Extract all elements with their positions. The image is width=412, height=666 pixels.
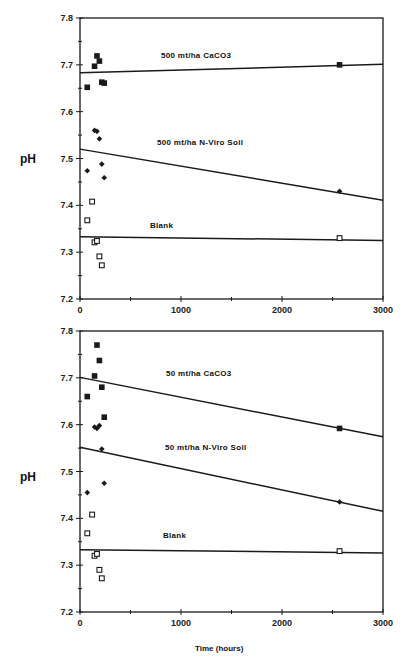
annotation-nviro: 500 mt/ha N-Viro Soil [157,138,243,147]
y-tick-label: 7.6 [60,420,73,430]
x-tick-label: 3000 [373,305,393,315]
x-tick-label: 1000 [171,305,191,315]
data-markers [84,53,342,268]
annotation-blank: Blank [150,221,174,230]
data-point-filled-square [101,80,107,86]
y-tick-label: 7.4 [60,200,73,210]
y-tick-label: 7.7 [60,60,73,70]
x-tick-label: 1000 [171,618,191,628]
data-point-filled-square [92,63,98,69]
y-tick-label: 7.3 [60,560,73,570]
y-axis-label: pH [20,152,36,166]
annotation-caco3: 500 mt/ha CaCO3 [161,51,232,60]
plot-frame [80,18,383,299]
y-axis-label: pH [20,470,36,484]
data-point-filled-square [92,373,98,379]
x-tick-label: 2000 [272,618,292,628]
y-tick-label: 7.8 [60,13,73,23]
x-tick-label: 0 [77,305,82,315]
data-point-filled-diamond [84,490,90,496]
annotation-nviro: 50 mt/ha N-Viro Soil [165,443,246,452]
data-point-filled-square [97,358,103,364]
x-tick-label: 2000 [272,305,292,315]
data-point-filled-square [337,426,343,432]
panel-top: 7.27.37.47.57.67.77.8 0100020003000 pH 5… [20,13,393,315]
data-point-open-square [337,549,342,554]
annotation-caco3: 50 mt/ha CaCO3 [166,369,232,378]
x-axis-label: Time (hours) [195,644,244,653]
chart-figure: 7.27.37.47.57.67.77.8 0100020003000 pH 5… [0,0,412,666]
data-point-filled-square [99,384,105,390]
y-tick-label: 7.8 [60,326,73,336]
data-point-filled-square [97,58,103,64]
x-tick-label: 3000 [373,618,393,628]
data-point-filled-diamond [101,480,107,486]
data-point-filled-diamond [99,161,105,167]
data-point-filled-square [101,414,107,420]
panel-bottom: 7.27.37.47.57.67.77.8 0100020003000 pH 5… [20,326,393,653]
data-point-filled-square [84,394,90,400]
y-tick-label: 7.2 [60,294,73,304]
data-point-filled-square [94,342,100,348]
data-point-filled-diamond [337,499,343,505]
x-tick-label: 0 [77,618,82,628]
y-tick-label: 7.5 [60,467,73,477]
data-point-filled-diamond [97,136,103,142]
data-point-open-square [99,263,104,268]
data-point-open-square [99,576,104,581]
data-point-open-square [90,199,95,204]
data-point-filled-square [84,85,90,91]
y-tick-label: 7.4 [60,513,73,523]
y-tick-label: 7.7 [60,373,73,383]
data-point-open-square [85,218,90,223]
data-point-filled-square [337,62,343,68]
fit-line [80,149,383,200]
data-point-open-square [337,236,342,241]
data-point-open-square [97,567,102,572]
data-point-open-square [97,254,102,259]
data-point-filled-diamond [84,168,90,174]
data-point-open-square [85,531,90,536]
y-tick-label: 7.2 [60,607,73,617]
y-tick-label: 7.3 [60,247,73,257]
y-tick-label: 7.5 [60,154,73,164]
y-tick-label: 7.6 [60,107,73,117]
data-point-open-square [95,552,100,557]
data-markers [84,342,342,580]
data-point-filled-square [94,53,100,59]
data-point-filled-diamond [101,175,107,181]
data-point-open-square [90,512,95,517]
fit-lines [80,377,383,553]
data-point-open-square [95,239,100,244]
fit-lines [80,64,383,240]
annotation-blank: Blank [163,531,187,540]
